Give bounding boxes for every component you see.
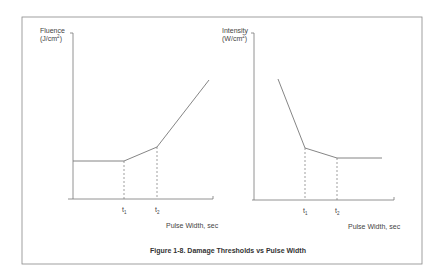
intensity-ylabel-unit: (W/cm2) bbox=[222, 34, 247, 43]
intensity-x-axis bbox=[252, 197, 394, 200]
intensity-chart: Intensity (W/cm2) t1 t2 Pulse Width, sec bbox=[222, 27, 401, 230]
fluence-curve bbox=[73, 80, 209, 161]
fluence-xlabel: Pulse Width, sec bbox=[166, 222, 219, 229]
fluence-ylabel-unit: (J/cm2) bbox=[40, 34, 62, 43]
fluence-x-axis bbox=[68, 196, 213, 199]
intensity-xlabel: Pulse Width, sec bbox=[348, 223, 401, 230]
figure-caption: Figure 1-8. Damage Thresholds vs Pulse W… bbox=[150, 247, 306, 255]
fluence-y-axis bbox=[70, 33, 73, 199]
fluence-chart: Fluence (J/cm2) t1 t2 Pulse Width, sec bbox=[40, 27, 219, 229]
fluence-ylabel: Fluence bbox=[40, 27, 65, 34]
intensity-y-axis bbox=[251, 33, 254, 200]
t2-label: t2 bbox=[335, 207, 340, 216]
intensity-curve bbox=[278, 79, 382, 158]
figure: Fluence (J/cm2) t1 t2 Pulse Width, sec I… bbox=[0, 0, 442, 278]
t2-label: t2 bbox=[155, 206, 160, 215]
t1-label: t1 bbox=[303, 207, 308, 216]
t1-label: t1 bbox=[122, 206, 127, 215]
